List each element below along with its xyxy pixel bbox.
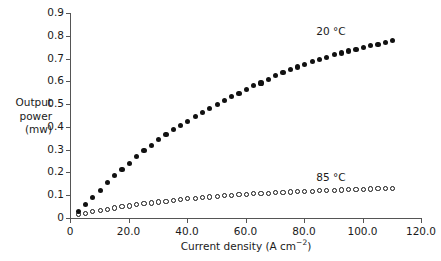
data-point [288, 189, 293, 194]
data-point [375, 42, 380, 47]
data-point [353, 187, 358, 192]
y-tick-mark [66, 13, 70, 14]
data-point [361, 187, 366, 192]
data-point [156, 199, 161, 204]
y-tick-label: 0.8 [26, 29, 64, 41]
y-tick-mark [66, 59, 70, 60]
data-point [83, 202, 88, 207]
data-point [353, 47, 358, 52]
data-point [332, 52, 337, 57]
y-tick-mark [66, 127, 70, 128]
data-point [280, 190, 285, 195]
data-point [229, 94, 234, 99]
data-point [149, 143, 154, 148]
data-point [134, 154, 139, 159]
data-point [222, 98, 227, 103]
data-point [222, 193, 227, 198]
data-point [193, 196, 198, 201]
y-tick-label: 0.9 [26, 6, 64, 18]
x-tick-label: 80.0 [279, 225, 329, 237]
data-point [302, 189, 307, 194]
data-point [244, 87, 249, 92]
y-tick-mark [66, 150, 70, 151]
data-point [280, 70, 285, 75]
data-point [90, 209, 95, 214]
data-point [200, 195, 205, 200]
y-tick-mark [66, 195, 70, 196]
data-point [105, 207, 110, 212]
data-point [375, 186, 380, 191]
data-point [339, 187, 344, 192]
x-tick-mark [363, 219, 364, 223]
data-point [317, 188, 322, 193]
data-point [207, 194, 212, 199]
x-tick-mark [304, 219, 305, 223]
data-point [346, 48, 351, 53]
data-point [266, 77, 271, 82]
data-point [266, 191, 271, 196]
data-point [163, 132, 168, 137]
data-point [310, 189, 315, 194]
data-point [273, 73, 278, 78]
data-point [383, 40, 388, 45]
data-point [383, 186, 388, 191]
data-point [127, 203, 132, 208]
data-point [200, 110, 205, 115]
x-tick-mark [246, 219, 247, 223]
x-tick-label: 100.0 [338, 225, 388, 237]
data-point [368, 43, 373, 48]
y-tick-label: 0.7 [26, 52, 64, 64]
x-tick-label: 120.0 [396, 225, 441, 237]
y-tick-label: 0.6 [26, 74, 64, 86]
x-tick-label: 60.0 [221, 225, 271, 237]
series-annotation-20c: 20 °C [316, 25, 345, 37]
data-point [236, 91, 241, 96]
data-point [324, 55, 329, 60]
x-tick-mark [70, 219, 71, 223]
data-point [83, 211, 88, 216]
data-point [141, 201, 146, 206]
data-point [251, 83, 256, 88]
x-tick-label: 40.0 [162, 225, 212, 237]
y-axis-title: Output power (mw) [0, 96, 52, 137]
x-tick-label: 20.0 [104, 225, 154, 237]
data-point [368, 186, 373, 191]
data-point [346, 187, 351, 192]
y-tick-mark [66, 104, 70, 105]
data-point [258, 191, 263, 196]
data-point [310, 59, 315, 64]
data-point [156, 137, 161, 142]
data-point [149, 200, 154, 205]
data-point [244, 192, 249, 197]
data-point [171, 127, 176, 132]
data-point [185, 119, 190, 124]
y-axis-title-line-3: (mw) [0, 123, 52, 137]
data-point [90, 195, 95, 200]
x-tick-mark [421, 219, 422, 223]
y-axis-line [70, 13, 71, 219]
data-point [339, 50, 344, 55]
data-point [390, 38, 395, 43]
y-tick-mark [66, 172, 70, 173]
x-axis-title: Current density (A cm−2) [70, 238, 422, 252]
data-point [207, 106, 212, 111]
data-point [76, 212, 81, 217]
y-tick-label: 0 [26, 211, 64, 223]
data-point [317, 57, 322, 62]
data-point [127, 161, 132, 166]
x-tick-mark [187, 219, 188, 223]
y-tick-mark [66, 81, 70, 82]
data-point [141, 148, 146, 153]
data-point [98, 208, 103, 213]
y-axis-title-line-2: power [0, 110, 52, 124]
series-annotation-85c: 85 °C [316, 171, 345, 183]
y-axis-title-line-1: Output [0, 96, 52, 110]
data-point [361, 45, 366, 50]
data-point [215, 194, 220, 199]
data-point [229, 193, 234, 198]
data-point [295, 64, 300, 69]
data-point [112, 173, 117, 178]
data-point [119, 204, 124, 209]
y-tick-label: 0.3 [26, 143, 64, 155]
y-tick-label: 0.1 [26, 188, 64, 200]
